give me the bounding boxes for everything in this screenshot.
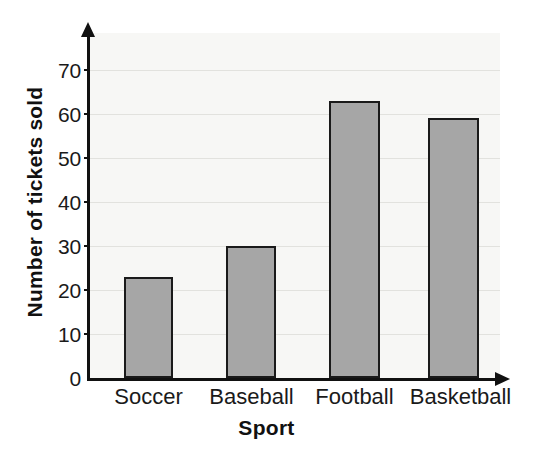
x-axis-title: Sport [0,416,533,440]
bar-baseball [226,246,276,378]
bar-chart: 70 60 50 40 30 20 10 0 Soccer Baseball F… [0,0,533,464]
y-axis-title: Number of tickets sold [23,52,47,352]
bar-basketball [428,118,479,378]
y-axis-arrow-icon [81,22,95,37]
y-tick-mark-40 [84,201,90,203]
x-tick-label-baseball: Baseball [193,385,310,408]
x-tick-label-basketball: Basketball [395,385,526,408]
y-tick-mark-60 [84,113,90,115]
gridline-60 [89,114,500,115]
x-axis-line [87,378,496,381]
bar-soccer [124,277,173,378]
x-tick-label-soccer: Soccer [93,385,204,408]
y-tick-mark-10 [84,333,90,335]
y-tick-mark-30 [84,245,90,247]
bar-football [329,101,380,378]
y-tick-label-0: 0 [37,368,81,389]
y-axis-line [87,36,90,380]
gridline-70 [89,70,500,71]
y-tick-mark-20 [84,289,90,291]
y-tick-mark-70 [84,69,90,71]
y-tick-mark-50 [84,157,90,159]
